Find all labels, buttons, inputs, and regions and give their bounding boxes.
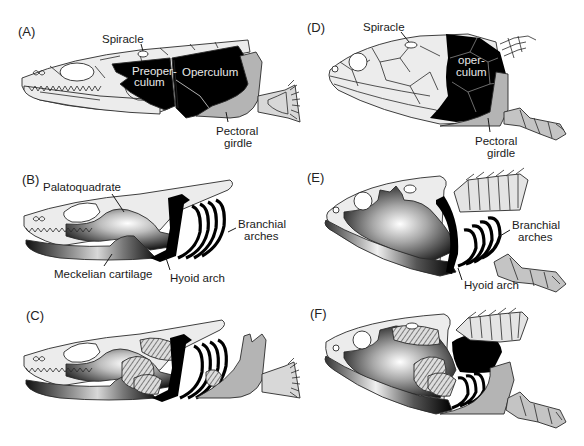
label-pectoral-d-1: Pectoral	[475, 135, 517, 147]
vertebrae-e	[454, 174, 528, 212]
branchial-arches-e	[458, 218, 500, 266]
label-preoperculum-a-2: culum	[134, 76, 165, 88]
label-palatoquadrate-b: Palatoquadrate	[43, 181, 121, 193]
panel-letter-b: (B)	[22, 172, 39, 187]
label-pectoral-a-1: Pectoral	[216, 125, 258, 137]
leader-hyoid-b	[166, 258, 170, 270]
label-spiracle-d: Spiracle	[363, 21, 405, 33]
panel-letter-d: (D)	[307, 20, 325, 35]
label-branchial-e-1: Branchial	[512, 219, 560, 231]
label-operculum-d-2: culum	[456, 66, 487, 78]
fish-skull-evolution-diagram: (A) Spiracle Preoper- culum Operculum Pe…	[0, 0, 584, 446]
label-branchial-b-1: Branchial	[238, 218, 286, 230]
leader-branchial-b	[228, 228, 236, 232]
orbit-a	[60, 63, 94, 81]
label-operculum-d-1: oper-	[458, 54, 485, 66]
label-pectoral-d-2: girdle	[487, 147, 515, 159]
nostril-d	[332, 66, 338, 72]
label-spiracle-a: Spiracle	[102, 33, 144, 45]
nostril-f	[333, 345, 339, 351]
panel-letter-f: (F)	[310, 306, 327, 321]
panel-letter-c: (C)	[26, 308, 44, 323]
panel-d: (D) Spiracle oper- culum Pectoral girdle	[307, 20, 566, 159]
label-branchial-b-2: arches	[244, 230, 279, 242]
spiracle-e	[404, 185, 416, 193]
muscle-hyoid-c	[134, 374, 162, 394]
vertebrae-d	[500, 36, 536, 58]
panel-letter-e: (E)	[307, 170, 324, 185]
nostril-e	[333, 207, 339, 213]
spiracle-a	[138, 51, 148, 57]
pectoral-limb-f	[506, 392, 566, 428]
orbit-e	[354, 192, 372, 210]
panel-e: (E) Branchial arches Hyoid arch	[307, 168, 566, 292]
panel-c: (C)	[24, 308, 300, 402]
label-operculum-a: Operculum	[182, 66, 238, 78]
label-pectoral-a-2: girdle	[224, 137, 252, 149]
panel-letter-a: (A)	[18, 24, 35, 39]
panel-b: (B) Palatoquadrate Meckelian cartilage H…	[22, 172, 286, 284]
label-hyoid-e: Hyoid arch	[464, 279, 519, 291]
panel-a: (A) Spiracle Preoper- culum Operculum Pe…	[18, 24, 300, 149]
spiracle-f	[406, 323, 418, 329]
muscle-hyoid-f	[428, 373, 456, 397]
label-hyoid-b: Hyoid arch	[170, 272, 225, 284]
label-meckelian-b: Meckelian cartilage	[54, 268, 152, 280]
label-branchial-e-2: arches	[518, 231, 553, 243]
pectoral-fin-c	[262, 362, 300, 398]
spiracle-d	[405, 42, 417, 48]
orbit-f	[353, 331, 371, 349]
panel-f: (F)	[310, 306, 566, 428]
orbit-d	[349, 53, 367, 71]
leader-hyoid-e	[458, 268, 462, 280]
